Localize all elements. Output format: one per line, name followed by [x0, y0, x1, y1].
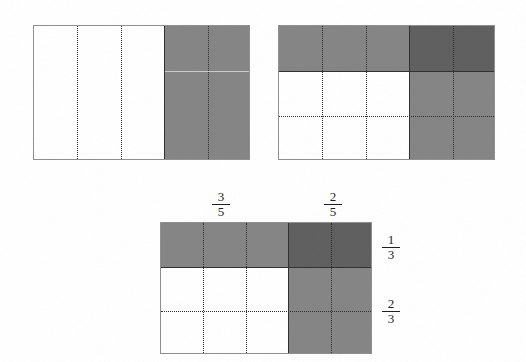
label-three-fifths-denominator: 5: [212, 204, 230, 219]
gridline-vertical-2: [121, 26, 122, 159]
label-one-third: 1 3: [378, 233, 404, 261]
rectangle-outline: [33, 25, 250, 160]
gridline-vertical-4: [453, 26, 454, 159]
gridline-vertical-3: [409, 26, 410, 159]
label-two-thirds-denominator: 3: [382, 311, 400, 326]
label-three-fifths-numerator: 3: [208, 190, 234, 204]
gridline-vertical-4: [208, 26, 209, 159]
gridline-vertical-1: [203, 223, 204, 353]
gridline-horizontal-2: [279, 116, 494, 117]
diagram-left-top: [33, 25, 250, 160]
diagram-bottom: [160, 222, 372, 354]
gridline-vertical-3: [164, 26, 165, 159]
gridline-horizontal-1: [279, 71, 494, 72]
gridline-vertical-2: [366, 26, 367, 159]
label-two-fifths-denominator: 5: [324, 204, 342, 219]
label-three-fifths: 3 5: [208, 190, 234, 218]
label-two-thirds: 2 3: [378, 297, 404, 325]
label-two-thirds-numerator: 2: [378, 297, 404, 311]
gridline-horizontal-1: [161, 267, 371, 268]
label-one-third-denominator: 3: [382, 247, 400, 262]
label-one-third-numerator: 1: [378, 233, 404, 247]
label-two-fifths: 2 5: [320, 190, 346, 218]
gridline-vertical-1: [322, 26, 323, 159]
rectangle-outline: [278, 25, 495, 160]
rectangle-outline: [160, 222, 372, 354]
gridline-vertical-3: [288, 223, 289, 353]
label-two-fifths-numerator: 2: [320, 190, 346, 204]
gridline-vertical-4: [331, 223, 332, 353]
diagram-right-top: [278, 25, 495, 160]
gridline-vertical-1: [77, 26, 78, 159]
gridline-horizontal-2: [161, 311, 371, 312]
gridline-vertical-2: [246, 223, 247, 353]
